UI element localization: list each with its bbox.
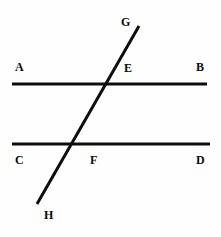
- label-F: F: [90, 154, 97, 166]
- geometry-figure: [0, 0, 221, 237]
- label-E: E: [124, 62, 132, 74]
- label-G: G: [121, 16, 130, 28]
- diagram-canvas: ABECFDGH: [0, 0, 221, 237]
- line-GH: [37, 26, 139, 204]
- label-H: H: [44, 209, 53, 221]
- label-C: C: [15, 154, 24, 166]
- label-B: B: [196, 61, 204, 73]
- lines-group: [12, 26, 210, 204]
- label-D: D: [196, 154, 205, 166]
- label-A: A: [15, 61, 24, 73]
